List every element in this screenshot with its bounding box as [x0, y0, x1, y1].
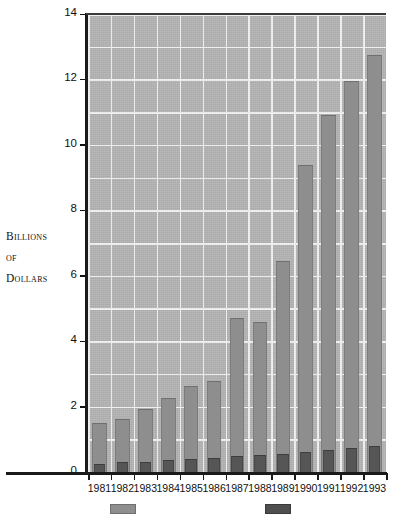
gridline-vertical [111, 14, 113, 472]
gridline-vertical [294, 14, 296, 472]
gridline-vertical [157, 14, 159, 472]
x-axis-tick-mark [363, 473, 365, 480]
gridline-vertical [180, 14, 182, 472]
bar-dark-1993 [369, 446, 380, 472]
gridline-vertical [88, 14, 90, 472]
y-axis: 02468101214 [0, 0, 90, 517]
bar-light-1993 [367, 55, 382, 472]
x-axis-tick-mark [271, 473, 273, 480]
bar-dark-1983 [140, 462, 151, 472]
bar-light-1988 [253, 322, 268, 472]
bar-dark-1982 [117, 462, 128, 472]
y-axis-tick-label: 12 [37, 71, 77, 83]
chart-figure: Billions of Dollars 02468101214 19811982… [0, 0, 393, 517]
y-axis-tick-label: 8 [37, 202, 77, 214]
plot-area [88, 14, 386, 472]
x-axis-tick-mark [294, 473, 296, 480]
bar-dark-1984 [163, 460, 174, 472]
bar-light-1992 [344, 81, 359, 472]
bar-light-1987 [230, 318, 245, 472]
bar-dark-1987 [231, 456, 242, 472]
x-axis-tick-mark [340, 473, 342, 480]
bar-dark-1990 [300, 452, 311, 472]
x-axis-tick-mark [317, 473, 319, 480]
bar-dark-1992 [346, 448, 357, 472]
x-axis-tick-mark [386, 473, 388, 480]
gridline-vertical [340, 14, 342, 472]
gridline-vertical [226, 14, 228, 472]
bar-dark-1986 [208, 458, 219, 472]
y-axis-tick-label: 6 [37, 268, 77, 280]
bar-dark-1988 [254, 455, 265, 472]
x-axis-tick-mark [111, 473, 113, 480]
y-axis-tick-label: 2 [37, 399, 77, 411]
bar-dark-1991 [323, 450, 334, 472]
x-axis-tick-mark [203, 473, 205, 480]
bar-dark-1989 [277, 454, 288, 472]
legend-swatch-light[interactable] [110, 504, 136, 514]
x-axis: 1981198219831984198519861987198819891990… [0, 472, 393, 502]
gridline-vertical [317, 14, 319, 472]
x-axis-tick-mark [248, 473, 250, 480]
bar-light-1991 [321, 115, 336, 472]
legend-swatch-dark[interactable] [265, 504, 291, 514]
y-axis-tick-label: 10 [37, 137, 77, 149]
y-axis-spine [85, 13, 88, 473]
gridline-vertical [203, 14, 205, 472]
bar-dark-1981 [94, 464, 105, 472]
bar-light-1989 [276, 261, 291, 472]
plot-top-border [86, 13, 386, 15]
y-axis-tick-label: 4 [37, 333, 77, 345]
gridline-vertical [271, 14, 273, 472]
x-axis-tick-mark [180, 473, 182, 480]
x-axis-tick-mark [226, 473, 228, 480]
x-axis-tick-mark [88, 473, 90, 480]
x-axis-tick-label-1993: 1993 [358, 482, 392, 494]
gridline-vertical [134, 14, 136, 472]
gridline-vertical [363, 14, 365, 472]
bar-dark-1985 [185, 459, 196, 472]
gridline-vertical [248, 14, 250, 472]
x-axis-tick-mark [157, 473, 159, 480]
chart-legend [0, 504, 393, 517]
bar-light-1990 [298, 165, 313, 473]
x-axis-tick-mark [134, 473, 136, 480]
y-axis-tick-label: 14 [37, 6, 77, 18]
